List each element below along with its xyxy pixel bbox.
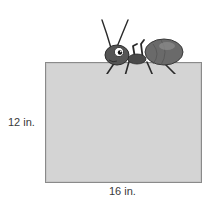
height-label: 12 in. xyxy=(8,116,35,128)
rectangle-diagram: 12 in. 16 in. xyxy=(0,0,213,203)
ant-icon xyxy=(95,14,185,74)
width-label: 16 in. xyxy=(109,185,136,197)
rectangle-shape xyxy=(45,62,202,183)
